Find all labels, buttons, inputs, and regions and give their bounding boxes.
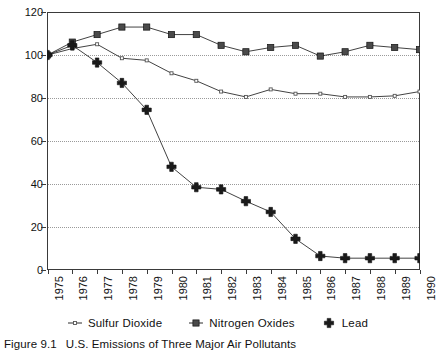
- x-tick-mark-1982: [221, 270, 222, 274]
- x-tick-label-1984: 1984: [276, 276, 288, 300]
- x-tick-mark-1981: [196, 270, 197, 274]
- y-tick-label-80: 80: [3, 92, 43, 104]
- datapoint-1977: [94, 31, 100, 37]
- x-tick-label-1985: 1985: [301, 276, 313, 300]
- y-tick-mark-60: [41, 141, 46, 142]
- x-tick-mark-1975: [48, 270, 49, 274]
- datapoint-1985: [292, 42, 298, 48]
- legend-item-lead[interactable]: Lead: [321, 317, 368, 329]
- datapoint-1978: [119, 24, 125, 30]
- x-tick-mark-1988: [370, 270, 371, 274]
- legend-label: Nitrogen Oxides: [209, 317, 294, 329]
- legend-label: Lead: [342, 317, 368, 329]
- y-tick-mark-120: [41, 12, 46, 13]
- datapoint-1987: [341, 254, 350, 263]
- datapoint-1986: [316, 251, 325, 260]
- datapoint-1989: [393, 94, 396, 97]
- series-line: [48, 44, 420, 97]
- datapoint-1988: [368, 95, 371, 98]
- datapoint-1985: [294, 92, 297, 95]
- x-tick-mark-1977: [97, 270, 98, 274]
- datapoint-1984: [268, 44, 274, 50]
- datapoint-1978: [120, 57, 123, 60]
- legend-item-nitrogen-oxides[interactable]: Nitrogen Oxides: [188, 317, 294, 329]
- x-tick-label-1981: 1981: [201, 276, 213, 300]
- datapoint-1986: [317, 53, 323, 59]
- x-tick-mark-1980: [172, 270, 173, 274]
- chart-area: % of 1975 Emissions 020406080100120 1975…: [0, 0, 435, 300]
- datapoint-1979: [144, 24, 150, 30]
- y-tick-label-60: 60: [3, 135, 43, 147]
- datapoint-1982: [220, 90, 223, 93]
- datapoint-1989: [392, 44, 398, 50]
- datapoint-1987: [344, 95, 347, 98]
- datapoint-1982: [218, 42, 224, 48]
- y-tick-mark-20: [41, 227, 46, 228]
- x-tick-mark-1979: [147, 270, 148, 274]
- legend-marker-filled-square-icon: [188, 317, 204, 329]
- x-tick-label-1978: 1978: [127, 276, 139, 300]
- x-tick-label-1990: 1990: [425, 276, 437, 300]
- datapoint-1980: [168, 31, 174, 37]
- x-tick-label-1975: 1975: [53, 276, 65, 300]
- x-tick-mark-1984: [271, 270, 272, 274]
- caption-label: Figure 9.1: [4, 338, 57, 350]
- x-tick-mark-1978: [122, 270, 123, 274]
- x-tick-mark-1983: [246, 270, 247, 274]
- datapoint-1990: [415, 254, 420, 263]
- datapoint-1988: [365, 254, 374, 263]
- x-tick-label-1988: 1988: [375, 276, 387, 300]
- legend-marker-small-dot-icon: [67, 317, 83, 329]
- series-line: [48, 45, 420, 258]
- datapoint-1980: [170, 72, 173, 75]
- series-sulfur-dioxide: [47, 43, 420, 99]
- x-tick-mark-1987: [345, 270, 346, 274]
- x-tick-mark-1990: [420, 270, 421, 274]
- x-tick-mark-1986: [320, 270, 321, 274]
- datapoint-1982: [217, 185, 226, 194]
- legend-label: Sulfur Dioxide: [88, 317, 162, 329]
- caption-text: U.S. Emissions of Three Major Air Pollut…: [66, 338, 296, 350]
- datapoint-1981: [193, 31, 199, 37]
- y-tick-label-100: 100: [3, 49, 43, 61]
- x-tick-label-1986: 1986: [325, 276, 337, 300]
- series-line: [48, 27, 420, 56]
- x-tick-label-1983: 1983: [251, 276, 263, 300]
- datapoint-1983: [244, 95, 247, 98]
- datapoint-1990: [416, 47, 420, 53]
- datapoint-1981: [195, 79, 198, 82]
- datapoint-1987: [342, 49, 348, 55]
- y-tick-mark-80: [41, 98, 46, 99]
- x-tick-label-1982: 1982: [226, 276, 238, 300]
- y-tick-mark-100: [41, 55, 46, 56]
- x-tick-label-1976: 1976: [77, 276, 89, 300]
- legend-item-sulfur-dioxide[interactable]: Sulfur Dioxide: [67, 317, 162, 329]
- x-tick-label-1980: 1980: [177, 276, 189, 300]
- datapoint-1983: [243, 49, 249, 55]
- datapoint-1977: [96, 43, 99, 46]
- datapoint-1988: [367, 42, 373, 48]
- x-tick-label-1977: 1977: [102, 276, 114, 300]
- y-tick-label-120: 120: [3, 6, 43, 18]
- datapoint-1990: [418, 90, 420, 93]
- series-layer: [47, 12, 420, 270]
- y-tick-label-40: 40: [3, 178, 43, 190]
- series-nitrogen-oxides: [47, 24, 420, 59]
- x-tick-label-1979: 1979: [152, 276, 164, 300]
- datapoint-1975: [47, 50, 52, 59]
- datapoint-1989: [390, 254, 399, 263]
- figure-caption: Figure 9.1 U.S. Emissions of Three Major…: [4, 338, 434, 350]
- x-tick-label-1989: 1989: [400, 276, 412, 300]
- legend-marker-plus-cross-icon: [321, 317, 337, 329]
- x-tick-mark-1976: [72, 270, 73, 274]
- datapoint-1984: [269, 88, 272, 91]
- x-tick-label-1987: 1987: [350, 276, 362, 300]
- x-tick-mark-1989: [395, 270, 396, 274]
- chart-legend: Sulfur DioxideNitrogen OxidesLead: [0, 313, 435, 333]
- datapoint-1986: [319, 92, 322, 95]
- datapoint-1983: [241, 197, 250, 206]
- y-axis-ticks: 020406080100120: [0, 0, 43, 300]
- series-lead: [47, 41, 420, 263]
- x-tick-mark-1985: [296, 270, 297, 274]
